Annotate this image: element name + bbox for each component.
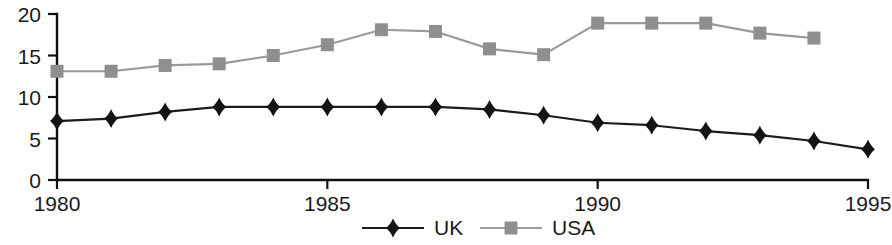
data-point-marker — [537, 48, 550, 61]
data-point-marker — [267, 49, 280, 62]
y-tick-label: 20 — [18, 3, 41, 26]
data-point-marker — [753, 27, 766, 40]
x-tick-label: 1985 — [304, 192, 351, 215]
data-point-marker — [50, 112, 64, 131]
y-tick-label: 5 — [29, 128, 41, 151]
data-point-marker — [483, 100, 497, 119]
data-point-marker — [699, 122, 713, 141]
data-point-marker — [861, 140, 875, 159]
data-point-marker — [645, 116, 659, 135]
x-tick-label: 1980 — [34, 192, 81, 215]
y-axis-tick-labels: 05101520 — [18, 3, 41, 192]
x-axis-tick-labels: 1980198519901995 — [34, 192, 892, 215]
axis-frame — [57, 14, 868, 180]
data-point-marker — [104, 109, 118, 128]
data-point-marker — [699, 17, 712, 30]
data-point-marker — [374, 98, 388, 117]
data-point-marker — [320, 98, 334, 117]
data-point-marker — [375, 23, 388, 36]
data-point-marker — [105, 65, 118, 78]
y-tick-label: 0 — [29, 169, 41, 192]
chart-legend: UKUSA — [362, 216, 595, 239]
data-point-marker — [807, 132, 821, 151]
data-point-marker — [213, 57, 226, 70]
legend-label-uk: UK — [434, 216, 463, 239]
y-tick-label: 10 — [18, 86, 41, 109]
data-point-marker — [266, 98, 280, 117]
x-tick-label: 1990 — [574, 192, 621, 215]
data-point-marker — [428, 98, 442, 117]
data-point-marker — [429, 25, 442, 38]
legend-marker-uk — [386, 219, 400, 238]
legend-label-usa: USA — [552, 216, 595, 239]
data-point-marker — [753, 126, 767, 145]
data-point-marker — [591, 17, 604, 30]
line-chart: 05101520 1980198519901995 UKUSA — [0, 0, 892, 245]
legend-marker-usa — [505, 222, 518, 235]
axis-lines — [48, 14, 868, 189]
x-tick-label: 1995 — [845, 192, 892, 215]
data-point-marker — [591, 113, 605, 132]
series-usa — [51, 17, 821, 78]
chart-canvas: 05101520 1980198519901995 UKUSA — [0, 0, 892, 245]
data-point-marker — [51, 65, 64, 78]
data-point-marker — [158, 102, 172, 121]
data-point-marker — [645, 17, 658, 30]
data-point-marker — [159, 59, 172, 72]
data-point-marker — [807, 32, 820, 45]
data-point-marker — [483, 42, 496, 55]
series-uk — [50, 98, 875, 159]
data-point-marker — [537, 106, 551, 125]
data-point-marker — [212, 98, 226, 117]
series-line-uk — [57, 107, 868, 149]
data-point-marker — [321, 38, 334, 51]
y-tick-label: 15 — [18, 45, 41, 68]
